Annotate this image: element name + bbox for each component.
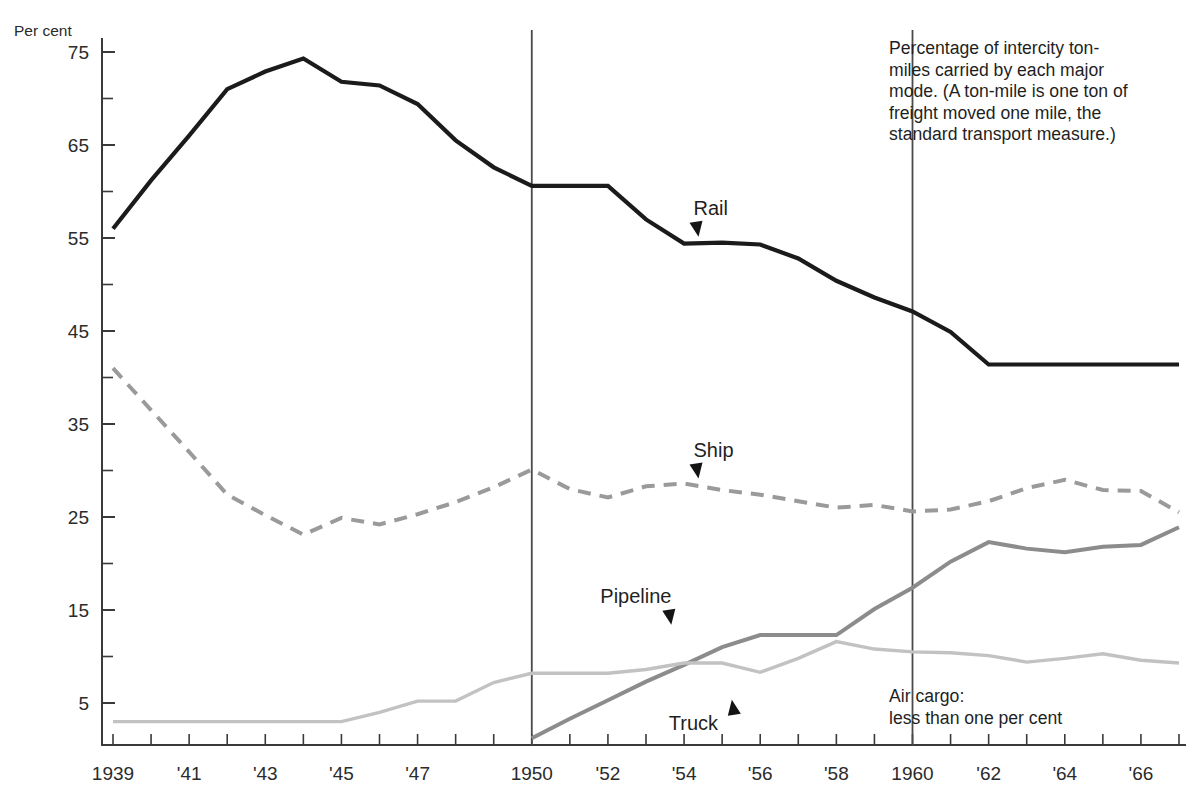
pointer-arrow-icon	[728, 700, 741, 716]
x-axis-tick-label: 1960	[891, 763, 933, 784]
x-axis-tick-label: '47	[405, 763, 430, 784]
y-axis-tick-labels: 756555453525155	[68, 42, 89, 714]
callout-ship: Ship	[689, 439, 733, 479]
x-axis-tick-label: '54	[672, 763, 697, 784]
y-axis-tick-label: 45	[68, 321, 89, 342]
x-axis-tick-label: '64	[1052, 763, 1077, 784]
y-axis-tick-label: 55	[68, 228, 89, 249]
vertical-reference-lines	[532, 30, 913, 745]
y-axis-title: Per cent	[14, 22, 72, 39]
callout-rail: Rail	[689, 197, 727, 237]
freight-modes-chart-figure: 756555453525155 1939'41'43'45'471950'52'…	[0, 0, 1192, 801]
x-axis-tick-label: '52	[596, 763, 621, 784]
series-line-ship	[113, 368, 1179, 534]
x-axis-tick-label: 1950	[511, 763, 553, 784]
x-axis-tick-label: '41	[177, 763, 202, 784]
series-label-pipeline: Pipeline	[600, 585, 671, 607]
y-axis-tick-label: 65	[68, 135, 89, 156]
x-axis-tick-label: '58	[824, 763, 849, 784]
series-label-rail: Rail	[693, 197, 727, 219]
x-axis-tick-label: 1939	[92, 763, 134, 784]
series-label-ship: Ship	[693, 439, 733, 461]
x-axis-tick-label: '43	[253, 763, 278, 784]
x-axis-tick-label: '66	[1129, 763, 1154, 784]
y-axis-tick-label: 15	[68, 600, 89, 621]
air-cargo-note: Air cargo: less than one per cent	[889, 686, 1179, 729]
pointer-arrow-icon	[662, 609, 675, 625]
callout-pipeline: Pipeline	[600, 585, 675, 625]
pointer-arrow-icon	[689, 463, 702, 479]
y-axis-tick-label: 35	[68, 414, 89, 435]
x-axis-tick-label: '62	[976, 763, 1001, 784]
y-axis-tick-label: 5	[78, 693, 89, 714]
series-callouts: RailShipPipelineTruck	[600, 197, 741, 734]
pointer-arrow-icon	[689, 221, 702, 237]
chart-description-note: Percentage of intercity ton- miles carri…	[889, 38, 1189, 146]
y-axis-tick-label: 25	[68, 507, 89, 528]
x-axis-tick-label: '56	[748, 763, 773, 784]
x-axis-tick-label: '45	[329, 763, 354, 784]
y-axis-tick-label: 75	[68, 42, 89, 63]
callout-truck: Truck	[669, 700, 741, 734]
x-axis-tick-labels: 1939'41'43'45'471950'52'54'56'581960'62'…	[92, 763, 1153, 784]
series-label-truck: Truck	[669, 712, 719, 734]
data-series	[113, 59, 1179, 739]
